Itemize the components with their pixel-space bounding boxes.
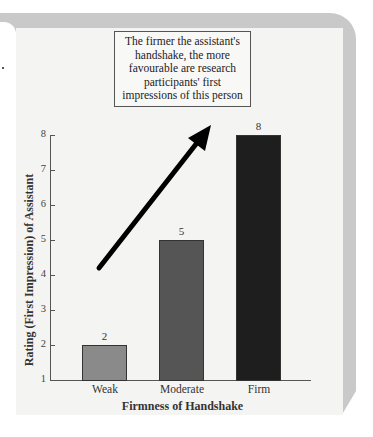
y-axis-title: Rating (First Impression) of Assistant: [22, 160, 37, 380]
y-tick: [50, 170, 55, 171]
x-axis-title: Firmness of Handshake: [80, 399, 285, 414]
y-tick: [50, 135, 55, 136]
bar-firm: [236, 135, 281, 381]
y-tick: [50, 240, 55, 241]
y-tick-label: 1: [36, 373, 46, 384]
y-tick-label: 8: [36, 128, 46, 139]
y-tick: [50, 380, 55, 381]
bar-value-moderate: 5: [159, 225, 204, 237]
y-tick-label: 4: [36, 268, 46, 279]
y-tick-label: 2: [36, 338, 46, 349]
y-tick-label: 7: [36, 163, 46, 174]
y-axis: [50, 135, 51, 380]
y-tick: [50, 310, 55, 311]
y-tick-label: 5: [36, 233, 46, 244]
category-label-moderate: Moderate: [147, 383, 217, 395]
y-tick-label: 6: [36, 198, 46, 209]
y-tick: [50, 275, 55, 276]
bar-value-firm: 8: [236, 120, 281, 132]
y-tick: [50, 345, 55, 346]
y-tick-label: 3: [36, 303, 46, 314]
category-label-weak: Weak: [70, 383, 140, 395]
y-tick: [50, 205, 55, 206]
category-label-firm: Firm: [224, 383, 294, 395]
bar-value-weak: 2: [82, 330, 127, 342]
bar-moderate: [159, 240, 204, 381]
bar-weak: [82, 345, 127, 381]
